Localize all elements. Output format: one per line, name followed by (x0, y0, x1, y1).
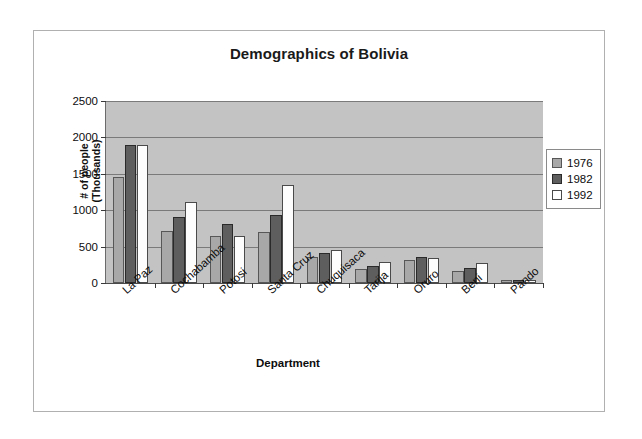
bar-1976-tarija (355, 269, 367, 283)
bar-1976-cochabamba (161, 231, 173, 283)
legend-label-1976: 1976 (567, 157, 593, 169)
bar-1976-oruro (404, 260, 416, 283)
bar-group (494, 101, 543, 283)
bar-1982-la-paz (125, 145, 137, 283)
bar-1976-pando (501, 280, 513, 283)
y-axis-tick (101, 283, 106, 284)
y-axis-tick-label: 2000 (72, 131, 98, 143)
chart-frame: Demographics of Bolivia # of people (Tho… (33, 30, 605, 412)
x-axis-labels: La PazCochabambaPotosiSanta CruzChuquisa… (105, 287, 542, 367)
y-axis-tick-label: 2500 (72, 95, 98, 107)
legend-item-1982: 1982 (552, 171, 593, 187)
legend-item-1992: 1992 (552, 187, 593, 203)
chart-legend: 197619821992 (546, 149, 601, 209)
bar-1976-beni (452, 271, 464, 283)
legend-swatch-1982 (552, 174, 562, 184)
legend-label-1982: 1982 (567, 173, 593, 185)
legend-swatch-1976 (552, 158, 562, 168)
bars-layer (106, 101, 543, 283)
bar-1976-santa-cruz (258, 232, 270, 283)
y-axis-tick-label: 1500 (72, 168, 98, 180)
x-axis-title: Department (34, 357, 542, 369)
x-axis-tick (543, 283, 544, 288)
bar-group (446, 101, 495, 283)
y-axis-tick-label: 500 (79, 241, 98, 253)
bar-group (397, 101, 446, 283)
legend-swatch-1992 (552, 190, 562, 200)
y-axis-tick-label: 1000 (72, 204, 98, 216)
chart-title: Demographics of Bolivia (34, 45, 604, 62)
bar-group (106, 101, 155, 283)
bar-1976-la-paz (113, 177, 125, 283)
legend-label-1992: 1992 (567, 189, 593, 201)
legend-item-1976: 1976 (552, 155, 593, 171)
y-axis-tick-label: 0 (92, 277, 98, 289)
plot-area: 05001000150020002500 (105, 101, 543, 284)
bar-group (155, 101, 204, 283)
bar-group (252, 101, 301, 283)
